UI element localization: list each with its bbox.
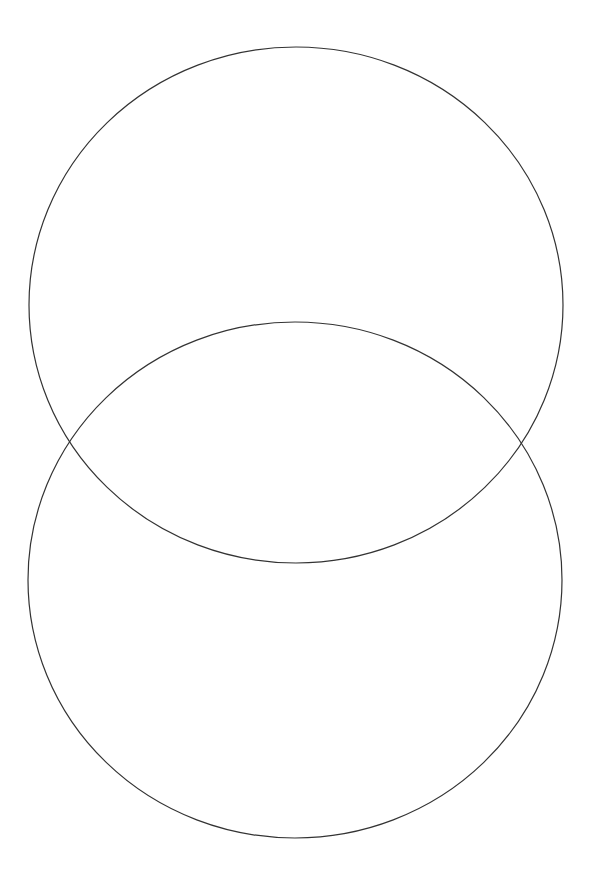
bottom-circle bbox=[28, 322, 562, 838]
diagram-canvas bbox=[0, 0, 591, 895]
venn-diagram bbox=[0, 0, 591, 895]
top-circle bbox=[29, 47, 563, 563]
